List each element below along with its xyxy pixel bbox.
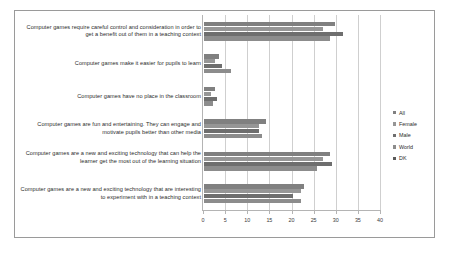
bar xyxy=(204,119,266,123)
axis-tick xyxy=(292,210,293,214)
axis-tick xyxy=(269,210,270,214)
axis-tick xyxy=(380,210,381,214)
category-label: Computer games are a new and exciting te… xyxy=(19,150,201,165)
bar-group xyxy=(204,87,380,106)
gridline xyxy=(380,15,381,210)
gridline xyxy=(336,15,337,210)
bar xyxy=(204,92,211,96)
legend-swatch-icon xyxy=(393,157,396,160)
x-axis-tick-label: 20 xyxy=(289,217,295,223)
bar xyxy=(204,59,215,63)
bar xyxy=(204,129,259,133)
bar xyxy=(204,189,301,193)
bar-group xyxy=(204,184,380,203)
legend-swatch-icon xyxy=(393,122,396,125)
x-axis-tick-label: 40 xyxy=(377,217,383,223)
legend-label: World xyxy=(399,144,413,150)
legend-swatch-icon xyxy=(393,145,396,148)
bar xyxy=(204,69,231,73)
bar xyxy=(204,124,259,128)
chart-legend: AllFemaleMaleWorldDK xyxy=(393,107,433,164)
legend-swatch-icon xyxy=(393,111,396,114)
x-axis-tick-label: 15 xyxy=(266,217,272,223)
bar xyxy=(204,54,219,58)
x-axis-tick-label: 10 xyxy=(244,217,250,223)
legend-label: All xyxy=(399,110,405,116)
bar xyxy=(204,36,330,40)
bar xyxy=(204,101,213,105)
category-label: Computer games make it easier for pupils… xyxy=(19,60,201,67)
x-axis-tick-label: 30 xyxy=(333,217,339,223)
legend-item[interactable]: World xyxy=(393,141,433,152)
bar xyxy=(204,194,293,198)
legend-label: DK xyxy=(399,155,407,161)
legend-label: Female xyxy=(399,121,417,127)
bar xyxy=(204,184,304,188)
bar xyxy=(204,97,217,101)
category-label: Computer games are fun and entertaining.… xyxy=(19,121,201,136)
x-axis-tick-label: 0 xyxy=(202,217,205,223)
bar xyxy=(204,152,330,156)
gridline xyxy=(225,15,226,210)
legend-label: Male xyxy=(399,132,411,138)
plot-area: 0510152025303540 xyxy=(202,15,380,211)
bar xyxy=(204,157,323,161)
category-label: Computer games require careful control a… xyxy=(19,24,201,39)
legend-item[interactable]: All xyxy=(393,107,433,118)
bar-group xyxy=(204,22,380,41)
bar xyxy=(204,22,335,26)
bar xyxy=(204,199,301,203)
chart-frame: Computer games require careful control a… xyxy=(14,10,435,238)
bar xyxy=(204,32,343,36)
bar xyxy=(204,64,222,68)
axis-tick xyxy=(225,210,226,214)
axis-tick xyxy=(336,210,337,214)
axis-tick xyxy=(247,210,248,214)
gridline xyxy=(292,15,293,210)
bar-group xyxy=(204,119,380,138)
x-axis-tick-label: 5 xyxy=(224,217,227,223)
bar-group xyxy=(204,54,380,73)
category-axis-labels: Computer games require careful control a… xyxy=(19,15,201,221)
bar xyxy=(204,134,262,138)
x-axis-tick-label: 35 xyxy=(355,217,361,223)
bar-chart: Computer games require careful control a… xyxy=(15,11,436,239)
legend-item[interactable]: Female xyxy=(393,118,433,129)
bar-group xyxy=(204,152,380,171)
bar xyxy=(204,27,323,31)
x-axis-tick-label: 25 xyxy=(311,217,317,223)
gridline xyxy=(358,15,359,210)
bar xyxy=(204,87,215,91)
category-label: Computer games are a new and exciting te… xyxy=(19,186,201,201)
axis-tick xyxy=(358,210,359,214)
axis-tick xyxy=(203,210,204,214)
gridline xyxy=(314,15,315,210)
bar xyxy=(204,162,332,166)
gridline xyxy=(247,15,248,210)
gridline xyxy=(269,15,270,210)
bar xyxy=(204,166,317,170)
legend-item[interactable]: DK xyxy=(393,153,433,164)
axis-tick xyxy=(314,210,315,214)
legend-swatch-icon xyxy=(393,134,396,137)
legend-item[interactable]: Male xyxy=(393,130,433,141)
category-label: Computer games have no place in the clas… xyxy=(19,93,201,100)
